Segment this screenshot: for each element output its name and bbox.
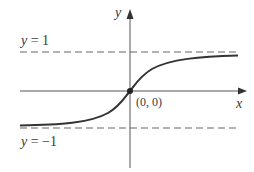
y-axis-arrow-icon: [127, 9, 134, 19]
asymptote-top-label: y = 1: [19, 33, 49, 48]
x-axis-label: x: [235, 96, 243, 111]
origin-label: (0, 0): [136, 95, 162, 109]
origin-point: [127, 88, 133, 94]
x-axis-arrow-icon: [238, 88, 247, 95]
y-axis-label: y: [113, 5, 122, 20]
asymptote-bottom-label: y = −1: [19, 134, 57, 149]
sigmoid-diagram: y x y = 1 y = −1 (0, 0): [0, 0, 254, 172]
